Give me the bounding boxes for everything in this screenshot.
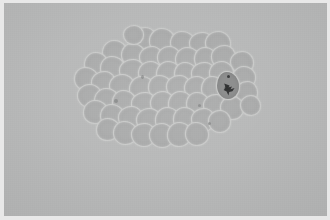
micrograph-viewport	[0, 0, 330, 220]
cell-speck	[208, 122, 211, 125]
cell	[124, 26, 143, 44]
cell	[241, 96, 260, 115]
micrograph-field	[4, 3, 327, 216]
cell-speck	[114, 99, 118, 103]
cell-cluster	[4, 3, 327, 216]
cell	[186, 123, 208, 145]
cell-speck	[198, 104, 201, 107]
cell	[209, 111, 230, 132]
nucleus-satellite-dot	[227, 75, 230, 78]
nucleus	[223, 83, 236, 96]
cell-speck	[141, 75, 144, 79]
